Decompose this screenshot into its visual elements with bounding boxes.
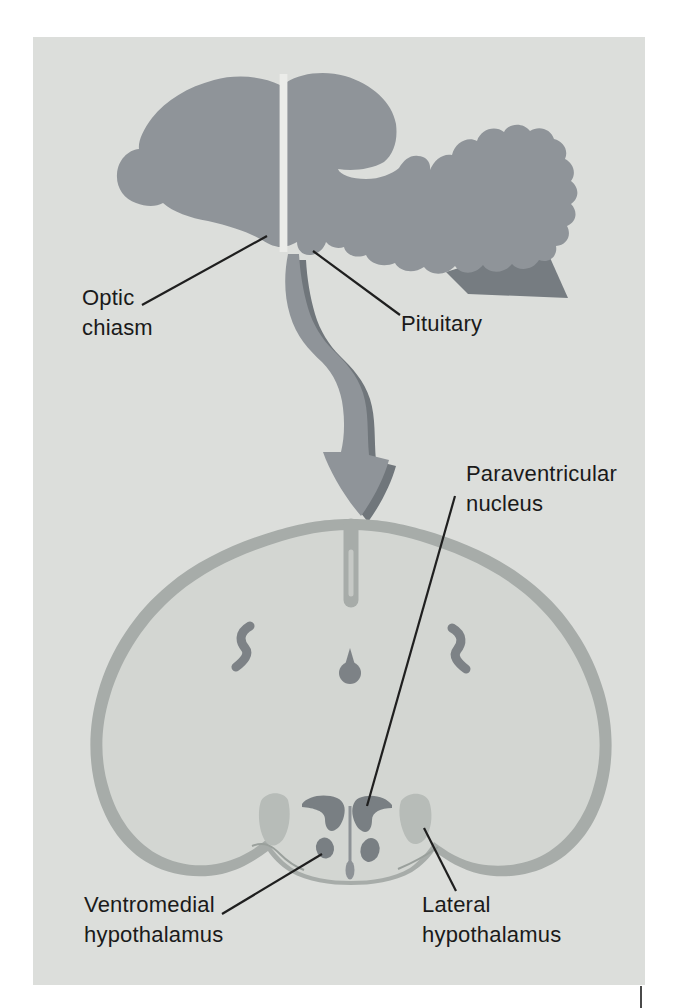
section-plane-cut-line (280, 74, 288, 252)
leader-optic-chiasm (142, 236, 267, 305)
label-optic-chiasm-line2: chiasm (82, 315, 153, 340)
coronal-section (90, 519, 611, 885)
label-optic-chiasm: Optic chiasm (82, 283, 153, 343)
label-lateral-line1: Lateral (422, 892, 491, 917)
label-ventromedial-line2: hypothalamus (84, 922, 223, 947)
descend-arrow-body (285, 254, 389, 516)
label-optic-chiasm-line1: Optic (82, 285, 134, 310)
label-lateral-line2: hypothalamus (422, 922, 561, 947)
label-paraventricular-nucleus: Paraventricular nucleus (466, 459, 617, 519)
sagittal-right-part (287, 73, 577, 274)
sagittal-brain (117, 73, 577, 298)
descend-arrow (285, 254, 396, 522)
label-pituitary: Pituitary (401, 309, 482, 339)
page-edge-mark (640, 986, 642, 1008)
label-pituitary-line1: Pituitary (401, 311, 482, 336)
label-lateral-hypothalamus: Lateral hypothalamus (422, 890, 561, 950)
label-ventromedial-hypothalamus: Ventromedial hypothalamus (84, 890, 223, 950)
label-paraventricular-line2: nucleus (466, 491, 543, 516)
sagittal-left-hemisphere (117, 77, 280, 247)
textbook-figure-page: Optic chiasm Pituitary Paraventricular n… (0, 0, 680, 1008)
label-paraventricular-line1: Paraventricular (466, 461, 617, 486)
label-ventromedial-line1: Ventromedial (84, 892, 215, 917)
